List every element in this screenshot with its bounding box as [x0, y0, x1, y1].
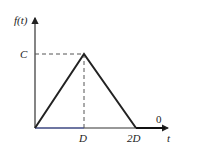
triangle-pulse-diagram: f(t) C D 2D 0 t	[0, 0, 200, 151]
peak-label: C	[20, 48, 28, 60]
tick-2d-label: 2D	[127, 132, 141, 144]
triangle-pulse	[35, 54, 136, 128]
tick-d-label: D	[78, 132, 87, 144]
y-axis-label: f(t)	[14, 14, 28, 27]
zero-label: 0	[156, 113, 162, 125]
x-axis-label: t	[167, 132, 171, 144]
